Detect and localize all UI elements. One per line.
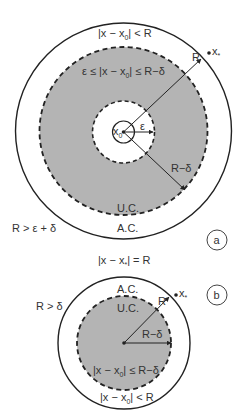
panel-a: x* |x − x0| < R ε ≤ |x − x0| ≤ R−δ x0 ε … [12, 23, 232, 250]
r-minus-delta-label-a: R−δ [171, 162, 192, 174]
xstar-label-b: x* [179, 287, 188, 301]
panel-b: x* A.C. U.C. R R−δ |x − x0| ≤ R−δ |x − x… [36, 277, 227, 409]
condition-a: R > ε + δ [12, 222, 56, 234]
r-label-b: R [158, 295, 166, 307]
uc-label-b: U.C. [117, 302, 139, 314]
panel-tag-a: a [214, 234, 221, 246]
epsilon-label: ε [140, 120, 145, 132]
condition-b: R > δ [36, 300, 63, 312]
xstar-point-b [174, 293, 178, 297]
diagram-canvas: x* |x − x0| < R ε ≤ |x − x0| ≤ R−δ x0 ε … [0, 0, 242, 420]
r-label-a: R [192, 51, 200, 63]
uc-label-a: U.C. [117, 202, 139, 214]
inner-inequality-b: |x − x0| ≤ R−δ [93, 364, 159, 378]
xstar-point-a [207, 51, 211, 55]
panel-tag-b: b [214, 289, 220, 301]
ac-label-b: A.C. [117, 283, 138, 295]
r-minus-delta-label-b: R−δ [142, 328, 163, 340]
annulus-inequality-a: ε ≤ |x − x0| ≤ R−δ [82, 65, 165, 79]
distance-equation: |x − x*| = R [98, 254, 151, 268]
outer-inequality-a: |x − x0| < R [98, 27, 152, 41]
ac-label-a: A.C. [117, 222, 138, 234]
outer-inequality-b: |x − x0| < R [100, 391, 154, 405]
xstar-label-a: x* [212, 45, 221, 59]
